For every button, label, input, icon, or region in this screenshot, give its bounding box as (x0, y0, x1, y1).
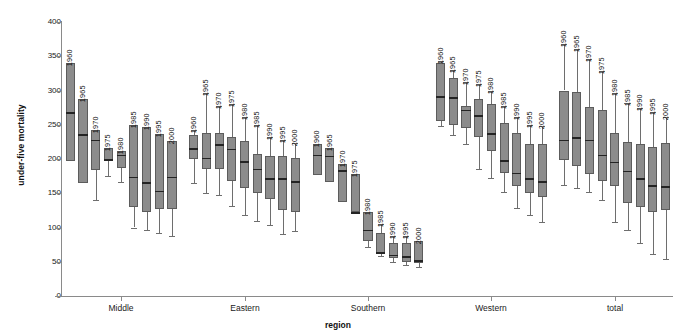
median-line (253, 169, 262, 171)
whisker-cap-lower (118, 182, 124, 183)
series-label-1965: 1965 (79, 85, 86, 102)
x-axis-title: region (0, 320, 676, 330)
series-label-1990: 1990 (389, 222, 396, 239)
boxplot-chart: 400350300250200150100500 under-five mort… (0, 0, 676, 336)
whisker-upper (564, 44, 565, 91)
box-rect (436, 63, 445, 121)
whisker-upper (466, 82, 467, 105)
median-line (623, 171, 632, 173)
group-label-total: total (607, 303, 623, 313)
whisker-upper (615, 93, 616, 133)
median-line (500, 160, 509, 162)
whisker-cap-lower (378, 256, 384, 257)
box-rect (598, 110, 607, 181)
median-line (227, 149, 236, 151)
y-tick-mark (55, 296, 61, 297)
median-line (512, 173, 521, 175)
whisker-cap-lower (131, 228, 137, 229)
whisker-lower (653, 212, 654, 253)
box-rect (240, 141, 249, 188)
series-label-2000: 2000 (168, 128, 175, 145)
box-rect (636, 144, 645, 207)
group-tick-eastern (245, 296, 246, 301)
median-line (167, 177, 176, 179)
median-line (402, 256, 411, 258)
whisker-lower (108, 160, 109, 176)
y-tick-mark (55, 159, 61, 160)
box-rect (155, 134, 164, 209)
y-tick-mark (55, 56, 61, 57)
whisker-cap-lower (216, 195, 222, 196)
median-line (610, 162, 619, 164)
series-label-1980: 1980 (240, 103, 247, 120)
whisker-upper (577, 49, 578, 91)
box-rect (525, 144, 534, 193)
series-label-1965: 1965 (326, 134, 333, 151)
series-label-1960: 1960 (313, 130, 320, 147)
box-rect (291, 158, 300, 213)
median-line (265, 178, 274, 180)
series-label-1975: 1975 (598, 58, 605, 75)
median-line (351, 212, 360, 214)
median-line (487, 133, 496, 135)
box-rect (363, 212, 372, 241)
median-line (363, 230, 372, 232)
whisker-lower (517, 186, 518, 208)
box-rect (325, 148, 334, 182)
box-rect (648, 147, 657, 213)
group-tick-southern (368, 296, 369, 301)
series-label-1970: 1970 (462, 69, 469, 86)
series-label-1985: 1985 (500, 92, 507, 109)
whisker-cap-lower (561, 185, 567, 186)
box-rect (129, 125, 138, 207)
median-line (648, 185, 657, 187)
median-line (104, 159, 113, 161)
y-axis-title: under-five mortality (16, 90, 26, 200)
whisker-lower (270, 199, 271, 225)
median-line (240, 161, 249, 163)
box-rect (474, 99, 483, 137)
series-label-2000: 2000 (661, 103, 668, 120)
whisker-lower (504, 173, 505, 192)
whisker-lower (453, 125, 454, 135)
whisker-cap-lower (144, 230, 150, 231)
whisker-cap-lower (93, 200, 99, 201)
y-tick-mark (55, 228, 61, 229)
median-line (202, 158, 211, 160)
series-label-1975: 1975 (228, 91, 235, 108)
series-label-1995: 1995 (155, 121, 162, 138)
box-rect (661, 143, 670, 210)
whisker-upper (219, 106, 220, 133)
series-label-2000: 2000 (415, 228, 422, 245)
box-rect (512, 133, 521, 186)
box-rect (227, 137, 236, 181)
whisker-cap-lower (488, 178, 494, 179)
series-label-1960: 1960 (190, 116, 197, 133)
whisker-cap-lower (476, 169, 482, 170)
whisker-cap-lower (599, 200, 605, 201)
whisker-lower (666, 210, 667, 259)
box-rect (313, 144, 322, 175)
series-label-1975: 1975 (104, 134, 111, 151)
whisker-lower (628, 203, 629, 230)
series-label-1965: 1965 (202, 80, 209, 97)
box-rect (500, 123, 509, 172)
series-label-1990: 1990 (142, 114, 149, 131)
median-line (436, 96, 445, 98)
y-tick-mark (55, 262, 61, 263)
whisker-cap-lower (390, 262, 396, 263)
box-rect (623, 142, 632, 203)
box-rect (376, 233, 385, 254)
series-label-2000: 2000 (291, 130, 298, 147)
series-label-1985: 1985 (377, 210, 384, 227)
box-rect (402, 243, 411, 262)
whisker-cap-lower (586, 192, 592, 193)
series-label-1970: 1970 (215, 93, 222, 110)
median-line (559, 140, 568, 142)
box-rect (215, 133, 224, 169)
series-label-1995: 1995 (649, 99, 656, 116)
whisker-cap-lower (438, 126, 444, 127)
whisker-lower (257, 193, 258, 220)
median-line (598, 155, 607, 157)
median-line (449, 97, 458, 99)
